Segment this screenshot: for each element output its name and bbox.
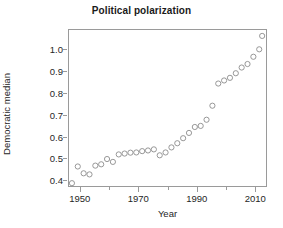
data-point (151, 147, 156, 152)
data-point (145, 148, 150, 153)
data-point (128, 150, 133, 155)
data-point (198, 123, 203, 128)
x-tick-label: 2010 (245, 193, 266, 204)
data-point (257, 47, 262, 52)
y-tick-mark (63, 137, 67, 138)
x-tick-label: 1970 (128, 193, 149, 204)
data-point (163, 150, 168, 155)
chart-title: Political polarization (0, 5, 283, 16)
data-point (216, 81, 221, 86)
scatter-series (69, 30, 268, 188)
y-tick-mark (63, 180, 67, 181)
x-tick-mark (138, 187, 139, 192)
data-point (227, 75, 232, 80)
data-point (175, 141, 180, 146)
data-point (99, 162, 104, 167)
data-point (75, 164, 80, 169)
data-point (81, 171, 86, 176)
data-point (157, 153, 162, 158)
data-point (134, 150, 139, 155)
data-point (140, 149, 145, 154)
y-tick-mark (63, 49, 67, 50)
data-point (169, 145, 174, 150)
data-point (222, 78, 227, 83)
x-tick-mark (197, 187, 198, 192)
data-point (116, 152, 121, 157)
data-point (210, 103, 215, 108)
data-point (233, 71, 238, 76)
data-point (239, 65, 244, 70)
data-point (122, 151, 127, 156)
x-tick-mark (255, 187, 256, 192)
data-point (110, 159, 115, 164)
x-tick-label: 1990 (186, 193, 207, 204)
y-tick-mark (63, 115, 67, 116)
data-point (260, 33, 265, 38)
data-point (104, 156, 109, 161)
data-point (245, 61, 250, 66)
chart-root: Political polarization Republican median… (0, 0, 283, 228)
data-point (186, 130, 191, 135)
plot-area (69, 30, 266, 186)
data-point (87, 172, 92, 177)
y-tick-mark (63, 71, 67, 72)
data-point (69, 181, 74, 186)
data-point (251, 54, 256, 59)
data-point (192, 124, 197, 129)
y-tick-mark (63, 158, 67, 159)
y-tick-mark (63, 93, 67, 94)
data-point (181, 136, 186, 141)
data-point (93, 163, 98, 168)
x-tick-mark-minor (109, 187, 110, 190)
x-tick-mark-minor (226, 187, 227, 190)
y-tick-marks (0, 29, 68, 187)
plot-frame (68, 29, 267, 187)
x-tick-mark-minor (168, 187, 169, 190)
x-tick-label: 1950 (69, 193, 90, 204)
x-tick-mark (80, 187, 81, 192)
x-axis-label: Year (68, 208, 267, 219)
x-tick-labels: 1950197019902010 (68, 193, 267, 207)
data-point (204, 117, 209, 122)
